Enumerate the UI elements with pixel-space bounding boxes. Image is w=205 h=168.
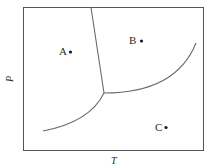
solid-liquid-boundary	[91, 8, 104, 94]
point-c-marker	[164, 126, 167, 129]
liquid-vapor-boundary	[104, 43, 196, 93]
y-axis-label: P	[5, 76, 15, 82]
point-c-label: C	[155, 122, 162, 133]
x-axis-label: T	[111, 156, 117, 166]
point-b-label: B	[129, 35, 136, 46]
point-a-marker	[69, 50, 72, 53]
phase-diagram	[0, 0, 205, 168]
solid-vapor-boundary	[43, 93, 104, 131]
point-b-marker	[140, 39, 143, 42]
point-a-label: A	[59, 46, 67, 57]
